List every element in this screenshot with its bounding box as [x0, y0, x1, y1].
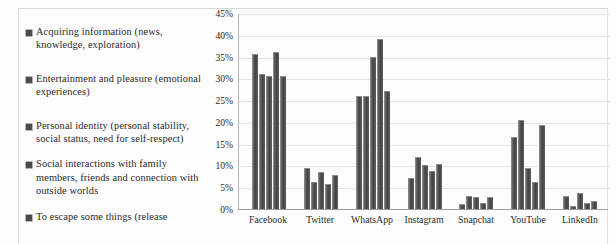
legend-swatch-icon — [26, 77, 32, 83]
legend-item-label: To escape some things (release — [36, 210, 168, 223]
bar[interactable] — [325, 184, 331, 209]
bar[interactable] — [532, 182, 538, 209]
bar[interactable] — [436, 164, 442, 209]
y-axis: 45%40%35%30%25%20%15%10%5%0% — [200, 14, 233, 210]
bar[interactable] — [311, 182, 317, 209]
bar[interactable] — [422, 165, 428, 209]
legend-swatch-icon — [26, 162, 32, 168]
x-axis-tick-label: LinkedIn — [554, 214, 606, 226]
legend-swatch-icon — [26, 215, 32, 221]
chart-page: Acquiring information (news, knowledge, … — [0, 0, 616, 244]
legend-swatch-icon — [26, 30, 32, 36]
x-axis-tick-label: Facebook — [242, 214, 294, 226]
legend-item: Entertainment and pleasure (emotional ex… — [26, 72, 202, 99]
y-axis-tick-label: 0% — [220, 205, 233, 215]
bar[interactable] — [459, 204, 465, 209]
legend-swatch-icon — [26, 124, 32, 130]
plot-area — [238, 14, 608, 210]
bar[interactable] — [332, 175, 338, 209]
bar-group — [450, 14, 502, 209]
bar-group — [554, 14, 606, 209]
legend-item-label: Social interactions with family members,… — [36, 157, 202, 197]
bar[interactable] — [370, 57, 376, 209]
x-axis-tick-label: WhatsApp — [346, 214, 398, 226]
legend-item-label: Personal identity (personal stability, s… — [36, 119, 202, 146]
bar[interactable] — [377, 39, 383, 209]
bar[interactable] — [304, 168, 310, 209]
bar-group — [347, 14, 399, 209]
y-axis-tick-label: 40% — [215, 31, 233, 41]
bar-group — [295, 14, 347, 209]
y-axis-tick-label: 20% — [215, 118, 233, 128]
bar[interactable] — [539, 125, 545, 209]
legend-item: To escape some things (release — [26, 210, 202, 223]
legend-item: Acquiring information (news, knowledge, … — [26, 25, 202, 52]
bar[interactable] — [577, 193, 583, 209]
bar[interactable] — [525, 168, 531, 209]
legend-item-label: Acquiring information (news, knowledge, … — [36, 25, 202, 52]
bar[interactable] — [591, 201, 597, 209]
y-axis-tick-label: 30% — [215, 75, 233, 85]
bar-group — [243, 14, 295, 209]
bar-group — [502, 14, 554, 209]
bar[interactable] — [280, 76, 286, 209]
bar[interactable] — [518, 120, 524, 209]
bar[interactable] — [356, 96, 362, 209]
bar[interactable] — [408, 178, 414, 209]
bar-chart: 45%40%35%30%25%20%15%10%5%0% FacebookTwi… — [200, 14, 608, 244]
x-axis-tick-label: Snapchat — [450, 214, 502, 226]
legend-item-label: Entertainment and pleasure (emotional ex… — [36, 72, 202, 99]
x-axis-tick-label: Twitter — [294, 214, 346, 226]
y-axis-tick-label: 5% — [220, 183, 233, 193]
y-axis-tick-label: 45% — [215, 9, 233, 19]
legend-item: Personal identity (personal stability, s… — [26, 119, 202, 146]
bar[interactable] — [415, 157, 421, 209]
bar[interactable] — [429, 171, 435, 209]
x-axis-tick-label: Instagram — [398, 214, 450, 226]
bar[interactable] — [384, 91, 390, 209]
bar[interactable] — [318, 172, 324, 209]
legend-item: Social interactions with family members,… — [26, 157, 202, 197]
y-axis-tick-label: 10% — [215, 162, 233, 172]
bar[interactable] — [584, 203, 590, 209]
bar[interactable] — [511, 137, 517, 209]
bar[interactable] — [363, 96, 369, 209]
x-axis-tick-label: YouTube — [502, 214, 554, 226]
x-axis: FacebookTwitterWhatsAppInstagramSnapchat… — [238, 214, 608, 226]
y-axis-tick-label: 15% — [215, 140, 233, 150]
bar[interactable] — [259, 74, 265, 209]
y-axis-tick-label: 25% — [215, 96, 233, 106]
y-axis-tick-label: 35% — [215, 53, 233, 63]
bar[interactable] — [480, 203, 486, 209]
bar[interactable] — [266, 76, 272, 209]
bar[interactable] — [473, 197, 479, 209]
bar[interactable] — [563, 196, 569, 209]
bar-groups — [239, 14, 608, 209]
bar-group — [399, 14, 451, 209]
bar[interactable] — [570, 206, 576, 209]
bar[interactable] — [487, 197, 493, 209]
chart-legend: Acquiring information (news, knowledge, … — [26, 25, 202, 235]
bar[interactable] — [466, 196, 472, 209]
bar[interactable] — [273, 52, 279, 209]
bar[interactable] — [252, 54, 258, 209]
